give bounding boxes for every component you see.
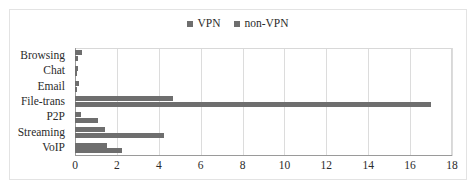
x-axis-tick-label: 4 — [156, 160, 162, 172]
category-row — [75, 94, 452, 109]
y-axis-label-email: Email — [38, 81, 65, 93]
x-axis-tick-label: 14 — [362, 160, 374, 172]
y-axis-label-chat: Chat — [43, 65, 65, 77]
bar-vpn[interactable] — [75, 143, 107, 148]
y-axis-label-streaming: Streaming — [18, 127, 65, 139]
gridline — [452, 48, 453, 156]
category-row — [75, 48, 452, 63]
bar-vpn[interactable] — [75, 81, 79, 86]
y-axis-label-p2p: P2P — [46, 111, 65, 123]
bar-non-vpn[interactable] — [75, 56, 78, 61]
legend-swatch-icon — [187, 21, 193, 27]
y-axis-category-labels: BrowsingChatEmailFile-transP2PStreamingV… — [0, 48, 70, 156]
x-axis-tick-label: 10 — [279, 160, 291, 172]
legend-entry[interactable]: non-VPN — [234, 18, 288, 30]
category-row — [75, 110, 452, 125]
bar-vpn[interactable] — [75, 50, 82, 55]
bar-non-vpn[interactable] — [75, 71, 77, 76]
y-axis-label-browsing: Browsing — [20, 50, 65, 62]
category-row — [75, 63, 452, 78]
x-axis-tick-label: 12 — [321, 160, 333, 172]
bar-chart: VPNnon-VPN BrowsingChatEmailFile-transP2… — [0, 0, 476, 189]
legend-swatch-icon — [234, 21, 240, 27]
bar-non-vpn[interactable] — [75, 148, 122, 153]
plot-area — [75, 48, 452, 156]
bar-vpn[interactable] — [75, 112, 81, 117]
legend-label: non-VPN — [244, 18, 288, 30]
category-row — [75, 125, 452, 140]
bar-non-vpn[interactable] — [75, 102, 431, 107]
legend-entry[interactable]: VPN — [187, 18, 220, 30]
bar-non-vpn[interactable] — [75, 118, 98, 123]
x-axis-tick-label: 6 — [198, 160, 204, 172]
legend-label: VPN — [197, 18, 220, 30]
x-axis-tick-label: 16 — [404, 160, 416, 172]
bar-vpn[interactable] — [75, 127, 105, 132]
x-axis-tick-label: 0 — [72, 160, 78, 172]
y-axis-label-file-trans: File-trans — [21, 96, 65, 108]
bar-non-vpn[interactable] — [75, 133, 164, 138]
x-axis-tick-label: 2 — [114, 160, 120, 172]
x-axis-tick-label: 8 — [240, 160, 246, 172]
bar-vpn[interactable] — [75, 96, 173, 101]
bar-series-group — [75, 48, 452, 156]
x-axis-tick-labels: 024681012141618 — [0, 160, 476, 176]
bar-non-vpn[interactable] — [75, 87, 77, 92]
category-row — [75, 79, 452, 94]
bar-vpn[interactable] — [75, 66, 78, 71]
chart-legend: VPNnon-VPN — [0, 17, 476, 31]
x-axis-tick-label: 18 — [446, 160, 458, 172]
y-axis-label-voip: VoIP — [42, 142, 65, 154]
category-row — [75, 141, 452, 156]
